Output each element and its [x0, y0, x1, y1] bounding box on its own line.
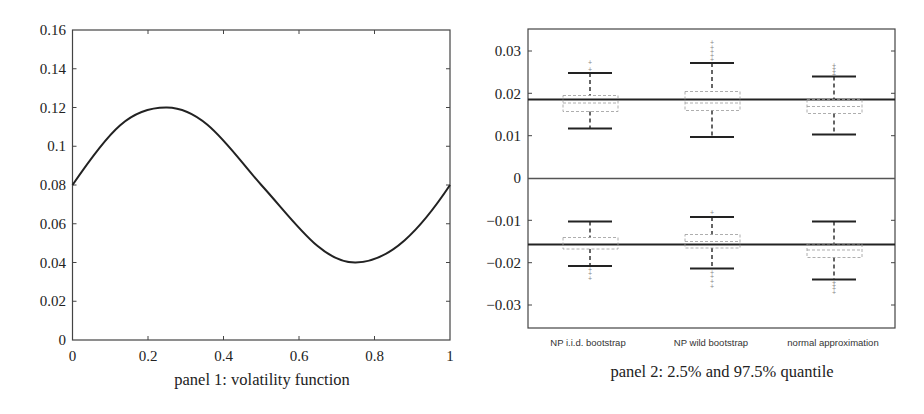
panel-2-y-tick-labels: 0.03 0.02 0.01 0 −0.01 −0.02 −0.03 [486, 43, 521, 313]
svg-text:+: + [710, 209, 714, 216]
y-tick-label: 0.01 [495, 128, 521, 144]
y-tick-label: 0.02 [40, 293, 66, 309]
svg-text:+: + [832, 289, 836, 296]
y-tick-label: 0.16 [40, 22, 67, 38]
x-tick-label: 0.6 [290, 348, 309, 364]
y-tick-label: 0.04 [40, 255, 67, 271]
y-tick-label: 0 [514, 170, 522, 186]
x-tick-label: 1 [446, 348, 454, 364]
figure: 0.16 0.14 0.12 0.1 0.08 0.06 0.04 0.02 0… [0, 0, 924, 414]
category-label: NP wild bootstrap [674, 337, 748, 348]
x-tick-label: 0 [69, 348, 77, 364]
svg-text:+: + [710, 283, 714, 290]
y-tick-label: −0.01 [486, 213, 521, 229]
x-tick-label: 0.8 [365, 348, 384, 364]
category-label: NP i.i.d. bootstrap [550, 337, 625, 348]
panel-1-y-tick-labels: 0.16 0.14 0.12 0.1 0.08 0.06 0.04 0.02 0 [40, 22, 67, 348]
svg-text:+: + [588, 59, 592, 66]
svg-text:+: + [588, 66, 592, 73]
y-tick-label: 0.12 [40, 100, 66, 116]
x-tick-label: 0.4 [214, 348, 233, 364]
svg-text:+: + [832, 71, 836, 78]
panel-1-caption: panel 1: volatility function [174, 370, 350, 389]
x-tick-label: 0.2 [139, 348, 158, 364]
y-tick-label: 0.14 [40, 61, 67, 77]
svg-text:+: + [710, 56, 714, 63]
y-tick-label: 0.06 [40, 216, 67, 232]
panel-1-volatility-chart: 0.16 0.14 0.12 0.1 0.08 0.06 0.04 0.02 0… [40, 22, 454, 389]
boxplot-np-wild-bootstrap: +++ ++ + ++++ [685, 39, 740, 290]
y-tick-label: 0.1 [47, 138, 66, 154]
y-tick-label: −0.02 [486, 255, 521, 271]
y-tick-label: 0.08 [40, 177, 66, 193]
boxplot-np-iid-bootstrap: ++ +++ [563, 59, 618, 282]
y-tick-label: −0.03 [486, 297, 521, 313]
panel-2-quantile-boxplot: 0.03 0.02 0.01 0 −0.01 −0.02 −0.03 ++ [486, 29, 895, 381]
y-tick-label: 0 [59, 332, 67, 348]
y-tick-label: 0.03 [495, 43, 521, 59]
panel-2-category-labels: NP i.i.d. bootstrap NP wild bootstrap no… [550, 337, 878, 348]
y-tick-label: 0.02 [495, 86, 521, 102]
category-label: normal approximation [787, 337, 878, 348]
panel-1-x-tick-labels: 0 0.2 0.4 0.6 0.8 1 [69, 348, 454, 364]
volatility-curve [73, 107, 451, 262]
panel-2-caption: panel 2: 2.5% and 97.5% quantile [610, 362, 833, 381]
svg-text:+: + [588, 275, 592, 282]
